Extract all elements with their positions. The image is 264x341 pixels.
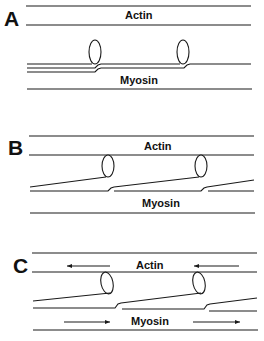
panel-letter-b: B (8, 136, 23, 159)
actin-label: Actin (144, 140, 172, 152)
myosin-neck (114, 180, 254, 191)
myosin-label: Myosin (131, 315, 169, 327)
myosin-head (195, 155, 207, 177)
panel-letter-a: A (4, 7, 19, 30)
myosin-head (191, 271, 207, 295)
myosin-head (102, 155, 114, 177)
myosin-neck (33, 293, 201, 308)
myosin-neck (33, 293, 110, 301)
panel-b: B Actin Myosin (8, 136, 255, 213)
actin-label: Actin (125, 9, 153, 21)
myosin-head (89, 40, 101, 64)
myosin-head (99, 271, 115, 295)
myosin-label: Myosin (142, 197, 180, 209)
myosin-neck (122, 298, 257, 309)
panel-c: C Actin Myosin (13, 253, 258, 330)
panel-letter-c: C (13, 254, 28, 277)
myosin-label: Myosin (120, 74, 158, 86)
actin-myosin-crossbridge-diagram: A Actin Myosin B Actin Myosin C Actin (0, 0, 264, 341)
actin-label: Actin (136, 259, 164, 271)
myosin-neck (30, 177, 106, 187)
panel-a: A Actin Myosin (4, 6, 252, 89)
myosin-neck (27, 64, 180, 68)
myosin-head (177, 40, 189, 64)
